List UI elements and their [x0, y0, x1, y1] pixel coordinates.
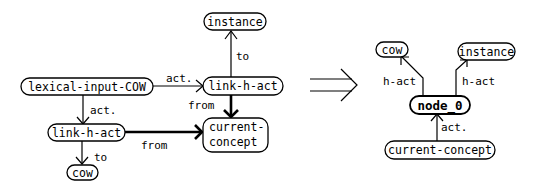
node-label-line2: concept [209, 135, 257, 149]
node-node0: node_0 [410, 96, 470, 114]
edge-label-act: act. [441, 121, 468, 134]
double-right-arrow-icon [310, 69, 357, 101]
node-label: instance [459, 45, 514, 59]
edge-label-to: to [236, 50, 249, 63]
node-instance-right: instance [458, 43, 515, 60]
edge-label-act: act. [90, 104, 117, 117]
node-label: instance [207, 15, 262, 29]
node-lexical-input-cow: lexical-input-COW [21, 78, 153, 95]
edge-label-act: act. [166, 72, 193, 85]
semantic-network-diagram: to act. from act. from to instance link-… [0, 0, 537, 190]
node-label-line1: current- [209, 120, 264, 134]
node-cow-right: cow [376, 42, 408, 57]
edge-node0-to-cow: h-act [383, 57, 423, 96]
edge-link-top-to-instance: to [225, 31, 249, 77]
edge-link-top-to-current: from [188, 95, 238, 117]
node-current-concept: current- concept [203, 118, 268, 152]
node-label: link-h-act [52, 126, 121, 140]
node-instance: instance [204, 13, 266, 30]
edge-label-h-act: h-act [383, 75, 416, 88]
edge-link-low-to-current: from [125, 125, 202, 152]
node-label: lexical-input-COW [28, 80, 146, 94]
edge-label-to: to [94, 151, 107, 164]
node-label: cow [382, 43, 403, 57]
edge-label-h-act: h-act [462, 75, 495, 88]
edge-current-to-node0: act. [431, 114, 468, 141]
edge-lexical-to-link-top: act. [153, 72, 203, 92]
edge-lexical-to-link-low: act. [77, 95, 117, 124]
edge-link-low-to-cow: to [76, 141, 107, 164]
node-label: current-concept [388, 143, 492, 157]
node-link-h-act-low: link-h-act [48, 124, 125, 141]
node-current-concept-right: current-concept [385, 141, 495, 159]
node-link-h-act-top: link-h-act [203, 77, 283, 95]
arrowhead-icon [401, 57, 409, 65]
edge-label-from: from [188, 99, 215, 112]
edge-label-from: from [141, 139, 168, 152]
edge-node0-to-instance: h-act [456, 60, 495, 96]
node-label: node_0 [417, 98, 462, 114]
node-label: link-h-act [208, 79, 277, 93]
node-label: cow [72, 166, 93, 180]
node-cow: cow [67, 165, 98, 180]
